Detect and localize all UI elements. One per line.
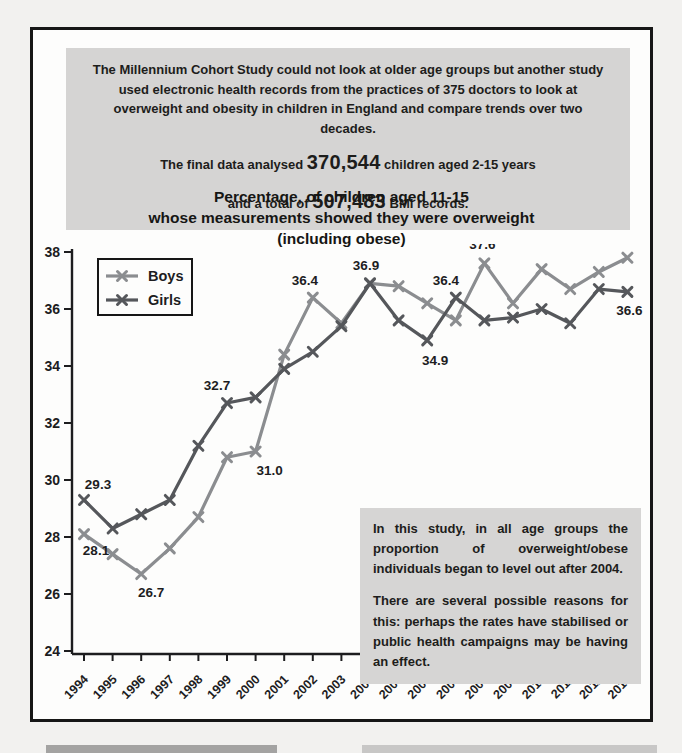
- study-conclusion-box: In this study, in all age groups the pro…: [360, 508, 641, 684]
- svg-text:36.9: 36.9: [353, 258, 379, 273]
- bottom-right-cropped-box: [362, 745, 657, 753]
- svg-text:37.6: 37.6: [469, 244, 496, 252]
- final-data-line-1: The final data analysed 370,544 children…: [84, 147, 612, 177]
- study-summary-text: The Millennium Cohort Study could not lo…: [84, 60, 612, 138]
- svg-text:36.4: 36.4: [292, 273, 319, 288]
- svg-text:31.0: 31.0: [256, 463, 282, 478]
- svg-text:1994: 1994: [62, 672, 92, 702]
- svg-text:36: 36: [44, 301, 60, 317]
- conclusion-paragraph-1: In this study, in all age groups the pro…: [373, 519, 628, 579]
- svg-text:32.7: 32.7: [204, 378, 230, 393]
- series-girls-line: [80, 279, 632, 533]
- svg-text:24: 24: [44, 643, 60, 659]
- svg-text:Girls: Girls: [148, 292, 181, 308]
- svg-text:36.6: 36.6: [616, 303, 643, 318]
- legend: BoysGirls: [98, 259, 192, 315]
- final-line-1-prefix: The final data analysed: [160, 157, 307, 172]
- svg-text:26: 26: [44, 586, 60, 602]
- final-line-1-suffix: children aged 2-15 years: [381, 157, 536, 172]
- svg-text:36.4: 36.4: [433, 273, 460, 288]
- svg-text:26.7: 26.7: [138, 585, 164, 600]
- svg-text:2001: 2001: [262, 672, 292, 702]
- svg-text:1997: 1997: [147, 672, 177, 702]
- svg-text:2003: 2003: [319, 672, 349, 702]
- conclusion-paragraph-2: There are several possible reasons for t…: [373, 591, 628, 672]
- svg-text:28: 28: [44, 529, 60, 545]
- svg-text:2000: 2000: [233, 672, 263, 702]
- svg-text:2002: 2002: [290, 672, 320, 702]
- chart-title: Percentage, of children aged 11-15 whose…: [33, 187, 650, 250]
- y-axis: 2426283032343638: [44, 244, 72, 659]
- svg-text:30: 30: [44, 472, 60, 488]
- svg-text:28.1: 28.1: [83, 543, 110, 558]
- svg-text:29.3: 29.3: [85, 477, 112, 492]
- svg-text:1998: 1998: [176, 672, 206, 702]
- svg-text:38: 38: [44, 244, 60, 260]
- svg-text:Boys: Boys: [148, 268, 183, 284]
- svg-text:34: 34: [44, 358, 60, 374]
- document-frame: The Millennium Cohort Study could not lo…: [30, 27, 653, 722]
- svg-text:34.9: 34.9: [422, 353, 448, 368]
- svg-text:1999: 1999: [205, 672, 235, 702]
- children-count: 370,544: [307, 151, 381, 173]
- svg-text:1996: 1996: [119, 672, 149, 702]
- svg-text:1995: 1995: [90, 672, 120, 702]
- svg-text:37.8: 37.8: [608, 244, 635, 247]
- bottom-left-cropped-box: [46, 745, 277, 753]
- svg-text:32: 32: [44, 415, 60, 431]
